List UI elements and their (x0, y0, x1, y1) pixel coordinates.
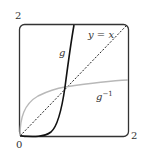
g-label: g (59, 48, 65, 58)
g-inverse-label-superscript: −1 (102, 90, 112, 98)
identity-line (20, 25, 127, 136)
identity-line-label: y = x (88, 30, 114, 40)
g-inverse-label: g−1 (96, 91, 113, 102)
origin-label: 0 (16, 140, 22, 150)
g-inverse-curve (20, 80, 128, 136)
function-inverse-diagram (0, 0, 142, 154)
g-curve (20, 25, 74, 137)
x-max-label: 2 (131, 131, 137, 141)
y-max-label: 2 (15, 11, 21, 21)
